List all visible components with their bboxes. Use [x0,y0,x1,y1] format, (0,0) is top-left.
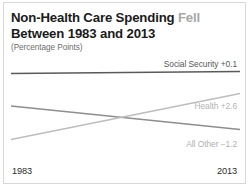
series-label-all-other: All Other −1.2 [186,139,237,149]
axis-label-start-year: 1983 [12,166,32,176]
series-label-health: Health +2.6 [194,101,237,111]
line-chart-plot [4,3,246,184]
axis-label-end-year: 2013 [217,166,237,176]
series-label-social-security: Social Security +0.1 [164,59,237,69]
chart-card: Non-Health Care Spending Fell Between 19… [3,2,246,184]
series-line-social-security [11,72,240,74]
